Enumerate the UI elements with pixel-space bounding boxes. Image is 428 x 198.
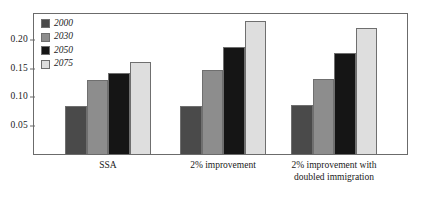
bar-2075-1 [245,21,267,154]
bar-group-0 [65,14,151,154]
legend-label-2000: 2000 [54,19,73,29]
bar-2050-2 [334,53,356,154]
bar-2030-0 [87,80,109,154]
chart-legend: 2000 2030 2050 2075 [41,18,73,70]
y-tick-label-0: 0.05 [11,121,28,131]
y-tick-mark-1 [30,97,35,98]
y-tick-label-3: 0.20 [11,36,28,46]
bar-2050-0 [108,73,130,154]
legend-swatch-2050 [41,46,50,55]
plot-area: 0.050.100.150.20 [34,14,407,154]
legend-item-0: 2000 [41,18,73,29]
bar-2000-0 [65,106,87,154]
bar-2000-1 [180,106,202,154]
legend-label-2075: 2075 [54,59,73,69]
y-tick-label-2: 0.15 [11,64,28,74]
x-category-label-2: 2% improvement withdoubled immigration [264,160,404,183]
legend-swatch-2030 [41,33,50,42]
bar-2075-2 [356,28,378,154]
legend-label-2050: 2050 [54,46,73,56]
legend-item-3: 2075 [41,59,73,70]
bar-2030-2 [313,79,335,154]
y-tick-mark-2 [30,68,35,69]
bar-2075-0 [130,62,152,154]
bar-2030-1 [202,70,224,154]
x-category-label-2-line2: doubled immigration [264,172,404,184]
bar-2000-2 [291,105,313,154]
legend-label-2030: 2030 [54,32,73,42]
y-tick-label-1: 0.10 [11,92,28,102]
y-tick-mark-0 [30,125,35,126]
legend-swatch-2000 [41,19,50,28]
legend-item-1: 2030 [41,32,73,43]
legend-swatch-2075 [41,60,50,69]
legend-item-2: 2050 [41,45,73,56]
bar-group-2 [291,14,377,154]
x-category-label-2-line1: 2% improvement with [264,160,404,172]
bar-chart-figure: 0.050.100.150.20 2000 2030 2050 2075 SSA… [0,0,428,198]
bar-2050-1 [223,47,245,154]
y-tick-mark-3 [30,40,35,41]
bar-group-1 [180,14,266,154]
plot-frame: 0.050.100.150.20 2000 2030 2050 2075 [33,13,408,155]
